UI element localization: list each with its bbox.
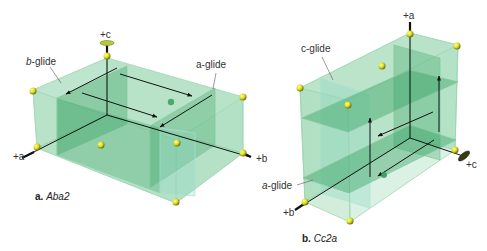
axis-b-label-b: +b	[283, 207, 295, 218]
axis-c-label-b: +c	[466, 159, 477, 170]
caption-a: a. Aba2	[35, 191, 70, 202]
figure-a-aba2: b-glide a-glide +c +a +b a. Aba2	[13, 29, 268, 206]
a-glide-label: a-glide	[196, 59, 226, 70]
axis-a-label-b: +a	[403, 10, 415, 21]
axis-c-disc	[100, 41, 114, 46]
glide-plane-diagram: b-glide a-glide +c +a +b a. Aba2	[0, 0, 487, 251]
axis-b-label: +b	[256, 153, 268, 164]
axis-a-label: +a	[13, 151, 25, 162]
axis-c-label: +c	[100, 29, 111, 40]
figure-b-cc2a: c-glide a-glide +a +b +c b. Cc2a	[262, 10, 477, 244]
c-glide-label: c-glide	[301, 43, 331, 54]
b-glide-label: b-glide	[26, 56, 56, 67]
a-glide-leader	[213, 73, 216, 89]
caption-b: b. Cc2a	[302, 233, 337, 244]
inner-plane-2	[160, 128, 195, 196]
a-glide-label-b: a-glide	[262, 180, 292, 191]
